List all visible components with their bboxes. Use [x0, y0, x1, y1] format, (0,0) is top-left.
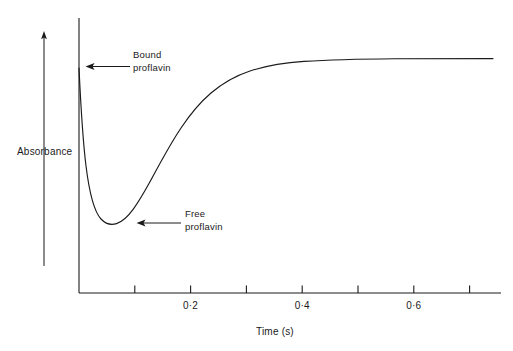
- annotation-free-proflavin: Free proflavin: [185, 208, 223, 233]
- x-axis-ticks: [135, 286, 470, 294]
- figure-container: Absorbance 0·2 0·4 0·6 Time (s) Bound pr…: [0, 0, 513, 351]
- absorbance-curve: [79, 59, 493, 225]
- x-axis-title: Time (s): [256, 326, 294, 337]
- annotation-free-proflavin-line1: Free: [185, 208, 223, 221]
- bound-proflavin-leader: [86, 63, 131, 70]
- y-axis-title: Absorbance: [17, 146, 72, 157]
- x-tick-label-0.2: 0·2: [183, 300, 198, 311]
- annotation-free-proflavin-line2: proflavin: [185, 221, 223, 234]
- annotation-bound-proflavin-line2: proflavin: [133, 62, 171, 75]
- plot-canvas: [0, 0, 513, 351]
- x-tick-label-0.6: 0·6: [406, 300, 421, 311]
- annotation-bound-proflavin-line1: Bound: [133, 49, 171, 62]
- x-tick-label-0.4: 0·4: [295, 300, 310, 311]
- annotation-bound-proflavin: Bound proflavin: [133, 49, 171, 74]
- free-proflavin-leader: [137, 220, 182, 227]
